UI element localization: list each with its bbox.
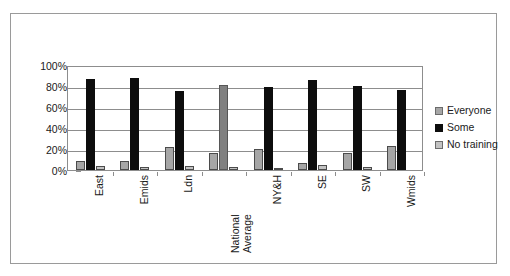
bar	[185, 166, 194, 170]
bar-group	[254, 67, 283, 170]
bar	[209, 153, 218, 170]
bar	[120, 161, 129, 170]
y-axis-tick-label: 100%	[25, 61, 67, 71]
bar	[274, 168, 283, 170]
chart-legend: EveryoneSomeNo training	[435, 102, 505, 153]
legend-item: Everyone	[435, 102, 505, 119]
bar-group	[120, 67, 149, 170]
x-axis-category-labels: EastEmidsLdnNationalAverageNY&HSESWWmids	[67, 175, 423, 255]
y-axis-tick-label: 60%	[25, 103, 67, 113]
bar	[397, 90, 406, 170]
bar-group	[298, 67, 327, 170]
bar	[229, 167, 238, 170]
bar	[219, 85, 228, 170]
bar	[363, 167, 372, 170]
y-axis-tick-label: 80%	[25, 82, 67, 92]
bar	[387, 146, 396, 170]
legend-swatch-icon	[435, 141, 443, 149]
bar-group	[387, 67, 416, 170]
x-axis-category-label: Emids	[138, 175, 150, 204]
x-axis-category-label: SW	[360, 175, 372, 192]
bar	[140, 167, 149, 170]
legend-swatch-icon	[435, 124, 443, 132]
bar-group	[165, 67, 194, 170]
bar	[96, 166, 105, 170]
x-axis-category-label: SE	[316, 175, 328, 189]
bar	[175, 91, 184, 170]
x-axis-category-label: NY&H	[271, 175, 283, 204]
bar	[165, 147, 174, 170]
legend-swatch-icon	[435, 107, 443, 115]
x-axis-tick-mark	[424, 172, 425, 176]
x-axis-category-label: NationalAverage	[229, 175, 253, 253]
bar	[298, 163, 307, 170]
bar	[308, 80, 317, 170]
legend-item-label: Some	[447, 122, 474, 133]
y-axis: 100%80%60%40%20%0%	[25, 58, 67, 180]
chart-frame: 100%80%60%40%20%0% EastEmidsLdnNationalA…	[10, 13, 497, 264]
bar-group	[209, 67, 238, 170]
y-axis-tick-label: 20%	[25, 145, 67, 155]
legend-item-label: No training	[447, 139, 498, 150]
bar-group	[343, 67, 372, 170]
bar-group	[76, 67, 105, 170]
bar	[254, 149, 263, 170]
y-axis-tick-label: 0%	[25, 166, 67, 176]
legend-item: Some	[435, 119, 505, 136]
bar	[264, 87, 273, 170]
bar	[86, 79, 95, 170]
x-axis-category-label: Ldn	[182, 175, 194, 193]
y-axis-tick-label: 40%	[25, 124, 67, 134]
x-axis-category-label-line: National	[229, 214, 241, 253]
plot-area	[67, 66, 423, 171]
x-axis-category-label: Wmids	[405, 175, 417, 207]
bar	[130, 78, 139, 170]
legend-item: No training	[435, 136, 505, 153]
bar	[318, 165, 327, 170]
y-axis-tick-mark	[76, 171, 81, 172]
x-axis-category-label-line: Average	[241, 175, 253, 253]
bar	[343, 153, 352, 170]
legend-item-label: Everyone	[447, 105, 491, 116]
x-axis-category-label: East	[93, 175, 105, 196]
bar	[353, 86, 362, 170]
bar	[76, 161, 85, 170]
